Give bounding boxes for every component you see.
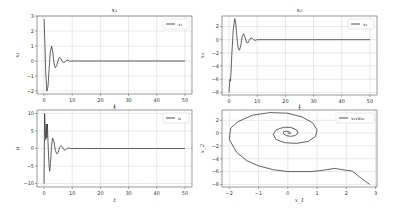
y-tick-label: 5: [31, 128, 34, 134]
subplot-3: 01020304050−10−50510ttuu: [14, 103, 192, 203]
y-axis-label: u: [14, 146, 20, 150]
y-tick-label: −6: [212, 168, 219, 174]
legend: x₂: [348, 19, 374, 29]
overlap-label: t: [298, 103, 301, 109]
y-axis-label: x₁: [14, 52, 20, 57]
subplot-1: 01020304050−2−10123x₁tx₁x₁: [14, 6, 192, 110]
x-tick-label: 30: [125, 190, 131, 196]
subplot-4: −2−10123−8−6−4−202tx_1x_2x₁vsx₂: [199, 103, 377, 204]
x-tick-label: 0: [286, 190, 289, 196]
y-tick-label: 2: [31, 28, 34, 34]
x-tick-label: 50: [182, 190, 188, 196]
y-tick-label: 3: [31, 13, 34, 19]
y-axis-label: x_2: [199, 143, 206, 153]
x-tick-label: 20: [97, 97, 103, 103]
x-tick-label: 30: [310, 98, 316, 104]
legend: u: [163, 113, 189, 123]
series-line: [229, 113, 369, 185]
y-tick-label: −4: [212, 63, 219, 69]
y-tick-label: −2: [27, 88, 34, 94]
x-axis-label: t: [113, 197, 116, 203]
x-tick-label: 50: [367, 98, 373, 104]
subplot-title: x₁: [112, 6, 118, 13]
y-tick-label: 1: [31, 43, 34, 49]
y-tick-label: −5: [27, 163, 34, 169]
x-tick-label: 3: [374, 190, 377, 196]
figure: 01020304050−2−10123x₁tx₁x₁01020304050−8−…: [0, 0, 394, 215]
overlap-label: t: [113, 103, 116, 109]
x-tick-label: 0: [42, 190, 45, 196]
x-tick-label: 10: [254, 98, 260, 104]
x-tick-label: 20: [282, 98, 288, 104]
y-tick-label: −1: [27, 73, 34, 79]
x-tick-label: 40: [154, 190, 160, 196]
y-tick-label: −2: [212, 143, 219, 149]
y-tick-label: 2: [216, 117, 219, 123]
x-tick-label: 2: [345, 190, 348, 196]
legend-label: x₁vsx₂: [351, 116, 365, 121]
x-tick-label: 0: [227, 98, 230, 104]
legend-label: x₁: [178, 22, 183, 27]
y-tick-label: −10: [23, 180, 34, 186]
x-tick-label: 1: [315, 190, 318, 196]
y-tick-label: −4: [212, 156, 219, 162]
y-tick-label: 0: [216, 37, 219, 43]
series-line: [44, 19, 185, 91]
x-tick-label: −1: [255, 190, 262, 196]
x-tick-label: 0: [42, 97, 45, 103]
legend-label: x₂: [363, 22, 368, 27]
series-line: [229, 19, 370, 93]
x-tick-label: 40: [339, 98, 345, 104]
y-tick-label: −8: [212, 89, 219, 95]
x-tick-label: 10: [69, 97, 75, 103]
x-tick-label: −2: [226, 190, 233, 196]
x-axis-label: x_1: [295, 197, 304, 204]
y-tick-label: −6: [212, 76, 219, 82]
y-tick-label: 0: [216, 130, 219, 136]
y-axis-label: x₂: [199, 53, 205, 58]
x-tick-label: 40: [154, 97, 160, 103]
x-tick-label: 30: [125, 97, 131, 103]
legend: x₁vsx₂: [336, 113, 374, 123]
y-tick-label: −8: [212, 181, 219, 187]
y-tick-label: −2: [212, 50, 219, 56]
legend: x₁: [163, 19, 189, 29]
legend-label: u: [178, 116, 181, 121]
x-tick-label: 50: [182, 97, 188, 103]
subplot-title: x₂: [297, 6, 303, 13]
y-tick-label: 0: [31, 145, 34, 151]
x-tick-label: 20: [97, 190, 103, 196]
y-tick-label: 10: [28, 110, 34, 116]
y-tick-label: 0: [31, 58, 34, 64]
subplot-2: 01020304050−8−6−4−202x₂tx₂x₂: [199, 6, 377, 111]
y-tick-label: 2: [216, 23, 219, 29]
x-tick-label: 10: [69, 190, 75, 196]
